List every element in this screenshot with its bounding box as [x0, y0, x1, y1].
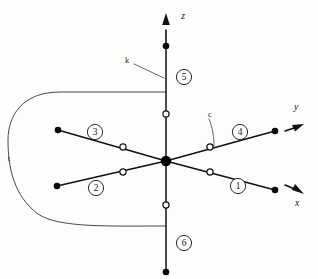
direction-line-4	[166, 131, 275, 161]
contour-curve-t	[8, 92, 166, 226]
node-hollow-direction-1	[207, 169, 213, 175]
badge-label-1: 1	[236, 181, 241, 191]
leader-line-k	[134, 64, 164, 78]
node-hollow-direction-2	[120, 169, 126, 175]
badge-direction-2: 2	[88, 180, 103, 195]
badge-label-6: 6	[182, 238, 187, 248]
node-endpoint-direction-3	[55, 127, 62, 134]
axis-label-y: y	[293, 102, 299, 112]
leader-line-c	[209, 119, 214, 146]
badge-label-3: 3	[93, 127, 98, 137]
node-hollow-direction-5	[163, 111, 169, 117]
origin-node	[161, 156, 171, 166]
axis-label-x: x	[294, 198, 300, 208]
feature-label-c: c	[208, 109, 212, 119]
coordinate-axes-figure: 1 2 3 4 5 6 z y x k c t	[0, 0, 318, 279]
arrow-head-x	[292, 184, 304, 194]
arrow-head-z	[162, 13, 170, 25]
axis-label-z: z	[180, 11, 185, 21]
node-endpoint-direction-1	[272, 187, 279, 194]
badge-direction-6: 6	[176, 235, 191, 250]
direction-line-1	[166, 161, 275, 190]
badge-direction-1: 1	[230, 178, 245, 193]
arrow-head-y	[292, 124, 304, 132]
badge-label-5: 5	[182, 72, 187, 82]
node-endpoint-direction-5	[163, 43, 170, 50]
node-hollow-direction-4	[207, 144, 213, 150]
badge-label-2: 2	[94, 183, 99, 193]
badge-direction-3: 3	[87, 124, 102, 139]
node-hollow-direction-3	[120, 144, 126, 150]
feature-label-t: t	[8, 153, 11, 163]
direction-line-2	[57, 161, 166, 186]
badge-direction-4: 4	[232, 124, 247, 139]
feature-label-k: k	[125, 55, 130, 65]
node-endpoint-direction-4	[272, 128, 279, 135]
badge-direction-5: 5	[176, 69, 191, 84]
node-endpoint-direction-2	[54, 183, 61, 190]
figure-canvas: 1 2 3 4 5 6 z y x k c t	[0, 0, 318, 279]
direction-line-3	[58, 130, 166, 161]
badge-label-4: 4	[238, 127, 243, 137]
node-hollow-direction-6	[163, 202, 169, 208]
node-endpoint-direction-6	[163, 269, 170, 276]
